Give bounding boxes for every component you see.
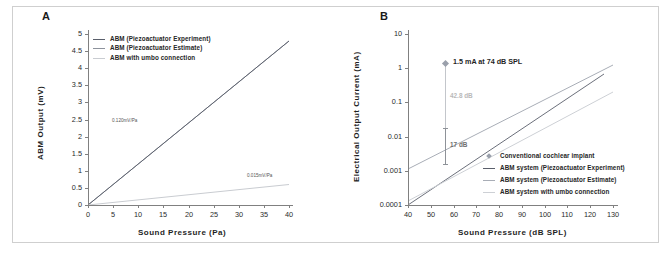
x-tick-mark <box>499 205 500 208</box>
x-tick-mark <box>522 205 523 208</box>
panel-b: B 0.00010.0010.010.1110 4050607080901001… <box>330 0 671 257</box>
annotation-gain-42db: 42.8 dB <box>450 93 473 99</box>
x-tick-label: 70 <box>464 211 488 218</box>
y-tick-mark <box>85 68 88 69</box>
y-tick-label: 1 <box>376 64 402 71</box>
x-tick-label: 5 <box>101 211 125 218</box>
panel-a-y-axis-title: ABM Output (mV) <box>36 86 45 160</box>
x-tick-mark <box>590 205 591 208</box>
x-tick-label: 60 <box>442 211 466 218</box>
x-tick-label: 130 <box>601 211 625 218</box>
legend-label: ABM system with umbo connection <box>500 189 609 195</box>
x-tick-label: 30 <box>227 211 251 218</box>
panel-a-x-axis-line <box>88 205 293 206</box>
annotation-slope-experiment: 0.120mV/Pa <box>112 119 137 124</box>
x-tick-mark <box>476 205 477 208</box>
legend-label: ABM (Piezoactuator Experiment) <box>110 36 211 42</box>
y-tick-label: 4 <box>64 64 82 71</box>
legend-line-icon <box>92 34 106 44</box>
x-tick-mark <box>431 205 432 208</box>
x-tick-mark <box>264 205 265 208</box>
annotation-gain-cap-bottom <box>443 164 448 165</box>
legend-item: ABM system with umbo connection <box>482 186 625 198</box>
panel-b-x-axis-line <box>408 205 618 206</box>
y-tick-label: 0.001 <box>376 167 402 174</box>
legend-line-icon <box>482 163 496 173</box>
panel-a: A 00.511.522.533.544.55 0510152025303540… <box>0 0 330 257</box>
x-tick-mark <box>567 205 568 208</box>
y-tick-mark <box>85 102 88 103</box>
legend-item: Conventional cochlear implant <box>482 150 625 162</box>
annotation-slope-umbo: 0.015mV/Pa <box>247 174 272 179</box>
x-tick-label: 110 <box>555 211 579 218</box>
y-tick-label: 0.0001 <box>376 201 402 208</box>
x-tick-label: 100 <box>533 211 557 218</box>
y-tick-mark <box>405 171 408 172</box>
panel-b-y-axis-line <box>408 30 409 206</box>
panel-a-letter: A <box>42 10 50 22</box>
x-tick-label: 40 <box>277 211 301 218</box>
legend-label: ABM system (Piezoactuator Experiment) <box>500 165 625 171</box>
legend-line-icon <box>92 53 106 63</box>
x-tick-label: 10 <box>126 211 150 218</box>
annotation-gain-bar-lower <box>445 128 446 164</box>
x-tick-mark <box>214 205 215 208</box>
x-tick-mark <box>545 205 546 208</box>
panel-a-legend: ABM (Piezoactuator Experiment)ABM (Piezo… <box>92 34 211 63</box>
legend-item: ABM with umbo connection <box>92 53 211 63</box>
y-tick-mark <box>85 34 88 35</box>
x-tick-label: 40 <box>396 211 420 218</box>
y-tick-label: 1 <box>64 167 82 174</box>
x-tick-mark <box>138 205 139 208</box>
y-tick-mark <box>85 85 88 86</box>
y-tick-mark <box>85 120 88 121</box>
legend-line-icon <box>482 187 496 197</box>
series-line-abm-umbo-connection <box>88 185 289 206</box>
y-tick-label: 3.5 <box>64 81 82 88</box>
x-tick-label: 90 <box>510 211 534 218</box>
y-tick-mark <box>405 102 408 103</box>
x-tick-label: 50 <box>419 211 443 218</box>
x-tick-mark <box>189 205 190 208</box>
y-tick-mark <box>85 51 88 52</box>
legend-item: ABM (Piezoactuator Estimate) <box>92 44 211 54</box>
y-tick-label: 3 <box>64 98 82 105</box>
y-tick-label: 10 <box>376 30 402 37</box>
annotation-implant-value: 1.5 mA at 74 dB SPL <box>453 58 522 65</box>
y-tick-mark <box>405 137 408 138</box>
y-tick-mark <box>85 171 88 172</box>
x-tick-label: 35 <box>252 211 276 218</box>
y-tick-mark <box>405 34 408 35</box>
annotation-gain-cap-mid <box>443 128 448 129</box>
y-tick-label: 0.1 <box>376 98 402 105</box>
x-tick-mark <box>88 205 89 208</box>
y-tick-label: 2 <box>64 133 82 140</box>
y-tick-label: 0 <box>64 201 82 208</box>
legend-label: ABM system (Piezoactuator Estimate) <box>500 177 617 183</box>
legend-label: ABM (Piezoactuator Estimate) <box>110 45 202 51</box>
x-tick-label: 15 <box>151 211 175 218</box>
legend-item: ABM (Piezoactuator Experiment) <box>92 34 211 44</box>
legend-item: ABM system (Piezoactuator Experiment) <box>482 162 625 174</box>
y-tick-mark <box>85 188 88 189</box>
x-tick-label: 25 <box>202 211 226 218</box>
legend-line-icon <box>482 175 496 185</box>
y-tick-mark <box>85 137 88 138</box>
annotation-gain-17db: 17 dB <box>450 142 467 148</box>
x-tick-mark <box>454 205 455 208</box>
legend-label: ABM with umbo connection <box>110 55 195 61</box>
panel-b-x-axis-title: Sound Pressure (dB SPL) <box>458 228 567 237</box>
x-tick-mark <box>289 205 290 208</box>
panel-b-legend: Conventional cochlear implantABM system … <box>482 150 625 198</box>
x-tick-mark <box>613 205 614 208</box>
y-tick-label: 2.5 <box>64 116 82 123</box>
y-tick-label: 0.5 <box>64 184 82 191</box>
figure-container: A 00.511.522.533.544.55 0510152025303540… <box>0 0 671 257</box>
x-tick-mark <box>408 205 409 208</box>
x-tick-label: 120 <box>578 211 602 218</box>
panel-a-x-axis-title: Sound Pressure (Pa) <box>138 228 226 237</box>
x-tick-mark <box>163 205 164 208</box>
y-tick-mark <box>405 68 408 69</box>
y-tick-label: 4.5 <box>64 47 82 54</box>
panel-b-letter: B <box>380 10 388 22</box>
